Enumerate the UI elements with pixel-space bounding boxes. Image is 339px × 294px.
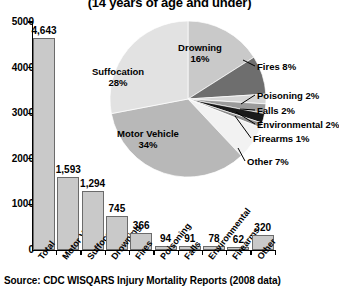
pie-callout-leader-line <box>235 116 251 138</box>
pie-callout-lines <box>0 0 339 294</box>
pie-callout-label: Firearms 1% <box>253 134 310 144</box>
pie-callout-label: Poisoning 2% <box>257 91 319 101</box>
pie-callout-leader-line <box>241 95 255 104</box>
injury-deaths-figure: (14 years of age and under) 500040003000… <box>0 0 339 294</box>
pie-callout-label: Environmental 2% <box>257 120 339 130</box>
pie-callout-leader-line <box>236 112 255 124</box>
pie-callout-label: Falls 2% <box>257 106 295 116</box>
pie-callout-leader-line <box>238 148 245 161</box>
pie-callout-label: Other 7% <box>247 157 289 167</box>
pie-callout-leader-line <box>240 109 255 110</box>
pie-callout-leader-line <box>243 60 255 66</box>
source-note: Source: CDC WISQARS Injury Mortality Rep… <box>4 275 281 286</box>
pie-callout-label: Fires 8% <box>257 62 296 72</box>
